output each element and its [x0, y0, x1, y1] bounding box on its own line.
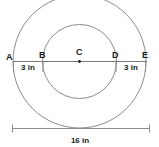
concentric-circles-svg: A B C D E 3 in 3 in 16 in — [0, 0, 159, 147]
point-label-d: D — [112, 50, 119, 60]
point-label-c: C — [76, 47, 83, 57]
center-point-dot — [78, 60, 81, 63]
geometry-diagram: A B C D E 3 in 3 in 16 in — [0, 0, 159, 147]
point-label-a: A — [6, 52, 13, 62]
dimension-label-16in: 16 in — [71, 136, 89, 145]
dimension-label-right-3in: 3 in — [124, 63, 138, 72]
point-label-b: B — [39, 50, 46, 60]
point-label-e: E — [142, 50, 148, 60]
dimension-label-left-3in: 3 in — [21, 63, 35, 72]
